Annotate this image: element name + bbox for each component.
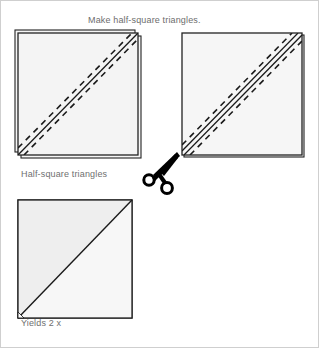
fabric-top-layer-right [182, 33, 302, 155]
figure-half-square-triangle-unit [18, 200, 132, 318]
scissors-handle-bottom [162, 183, 173, 194]
page-title: Make half-square triangles. [88, 15, 201, 25]
scissors-handle-left [144, 175, 154, 185]
figure-stacked-squares-right [182, 33, 304, 157]
figure-stacked-squares-left [15, 30, 141, 158]
scissors-icon [144, 152, 180, 193]
half-square-triangles-label: Half-square triangles [21, 169, 107, 179]
yields-label: Yields 2 x [21, 318, 61, 328]
diagram-page: Make half-square triangles. Half-square … [0, 0, 319, 348]
scissors-pivot [160, 172, 163, 175]
